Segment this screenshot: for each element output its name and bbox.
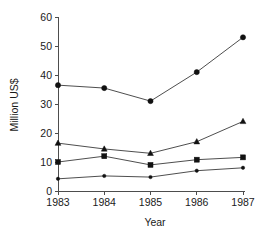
data-point-circle <box>102 85 107 90</box>
series-line <box>58 121 243 153</box>
data-point-square <box>148 162 153 167</box>
x-axis-title: Year <box>144 216 166 228</box>
y-axis-title: Million US$ <box>8 78 20 131</box>
data-series <box>56 154 246 168</box>
data-point-circle <box>55 83 60 88</box>
y-tick-label: 0 <box>46 185 52 197</box>
data-point-circle <box>240 35 245 40</box>
data-point-square <box>56 160 61 165</box>
data-point-dot <box>149 175 152 178</box>
data-series-group <box>55 35 246 181</box>
data-series <box>55 118 246 155</box>
data-point-circle <box>148 99 153 104</box>
y-tick-label: 10 <box>40 156 52 168</box>
data-series <box>56 166 244 180</box>
y-axis: 0102030405060 <box>40 11 58 197</box>
data-series <box>55 35 245 104</box>
y-tick-label: 40 <box>40 69 52 81</box>
data-point-dot <box>195 169 198 172</box>
x-tick-label: 1986 <box>185 196 209 208</box>
data-point-triangle <box>55 140 61 145</box>
data-point-dot <box>103 174 106 177</box>
x-tick-label: 1983 <box>46 196 70 208</box>
x-tick-label: 1984 <box>93 196 117 208</box>
y-tick-label: 50 <box>40 40 52 52</box>
data-point-dot <box>56 177 59 180</box>
data-point-square <box>241 155 246 160</box>
y-tick-label: 60 <box>40 11 52 23</box>
x-tick-label: 1987 <box>231 196 255 208</box>
data-point-square <box>194 157 199 162</box>
line-chart: 0102030405060 19831984198519861987 Milli… <box>0 0 260 234</box>
x-axis: 19831984198519861987 <box>46 191 255 208</box>
data-point-triangle <box>240 118 246 123</box>
series-line <box>58 37 243 101</box>
data-point-square <box>102 154 107 159</box>
x-tick-label: 1985 <box>139 196 163 208</box>
plot-area: 0102030405060 19831984198519861987 Milli… <box>0 0 260 234</box>
data-point-dot <box>241 166 244 169</box>
y-tick-label: 20 <box>40 127 52 139</box>
y-tick-label: 30 <box>40 98 52 110</box>
data-point-circle <box>194 70 199 75</box>
